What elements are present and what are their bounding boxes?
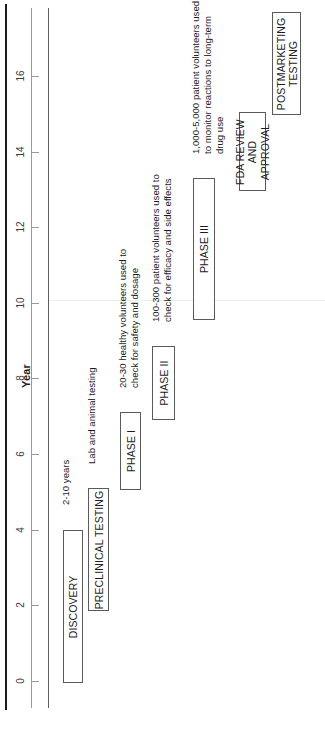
axis-tick-label-16-wrap: 16 <box>12 69 30 83</box>
bar-label-phase-i: PHASE I <box>124 430 136 472</box>
bar-phase-iii: PHASE III <box>193 178 215 320</box>
axis-tick-label-6: 6 <box>16 451 26 457</box>
bar-postmarketing-testing: POSTMARKETING TESTING <box>272 12 301 115</box>
axis-tick-label-6-wrap: 6 <box>12 447 30 461</box>
bar-preclinical-testing: PRECLINICAL TESTING <box>88 488 109 611</box>
axis-tick-4 <box>31 530 39 531</box>
axis-tick-label-4: 4 <box>16 527 26 533</box>
bar-label-preclinical-testing: PRECLINICAL TESTING <box>92 490 104 609</box>
axis-tick-6 <box>31 454 39 455</box>
axis-tick-0 <box>31 681 39 682</box>
bar-fda-review: FDA REVIEW AND APPROVAL <box>239 112 266 191</box>
note-phase-iii-line1: 1,000-5,000 patient volunteers used <box>190 1 202 154</box>
axis-tick-label-2: 2 <box>16 602 26 608</box>
axis-tick-label-8: 8 <box>16 375 26 381</box>
axis-tick-label-14: 14 <box>16 146 26 157</box>
axis-tick-14 <box>31 152 39 153</box>
axis-tick-10 <box>31 303 39 304</box>
note-phase-iii-line3: drug use <box>214 117 226 154</box>
axis-tick-label-10: 10 <box>16 297 26 308</box>
bar-label-postmarketing-testing: POSTMARKETING TESTING <box>274 17 299 109</box>
bar-label-fda-review: FDA REVIEW AND APPROVAL <box>234 119 271 185</box>
axis-tick-2 <box>31 605 39 606</box>
axis-tick-16 <box>31 76 39 77</box>
axis-tick-label-8-wrap: 8 <box>12 371 30 385</box>
axis-tick-12 <box>31 227 39 228</box>
figure-hairline <box>48 300 325 301</box>
bar-label-discovery: DISCOVERY <box>67 575 79 638</box>
note-preclinical: Lab and animal testing <box>86 367 98 464</box>
note-phase-i-line1: 20-30 healthy volunteers used to <box>117 249 129 388</box>
axis-tick-label-4-wrap: 4 <box>12 523 30 537</box>
axis-baseline <box>48 8 49 708</box>
bar-phase-ii: PHASE II <box>152 346 175 420</box>
axis-tick-label-0: 0 <box>16 678 26 684</box>
axis-tick-label-12-wrap: 12 <box>12 220 30 234</box>
note-phase-ii-line1: 100-300 patient volunteers used to <box>150 174 162 322</box>
note-phase-i-line2: check for safety and dosage <box>129 268 141 388</box>
drug-development-timeline-figure: Year 0 2 4 6 8 10 12 14 16 DISCOVERY 2-1… <box>0 0 325 731</box>
bar-discovery: DISCOVERY <box>63 530 83 683</box>
note-phase-ii-line2: check for efficacy and side effects <box>162 178 174 322</box>
axis-tick-label-10-wrap: 10 <box>12 296 30 310</box>
axis-tick-label-16: 16 <box>16 70 26 81</box>
axis-tick-label-14-wrap: 14 <box>12 145 30 159</box>
axis-tick-8 <box>31 378 39 379</box>
note-phase-iii-line2: to monitor reactions to long-term <box>202 16 214 154</box>
bar-label-phase-iii: PHASE III <box>198 225 210 273</box>
figure-frame-edge <box>5 4 7 710</box>
axis-tick-label-0-wrap: 0 <box>12 674 30 688</box>
note-discovery: 2-10 years <box>60 460 72 505</box>
bar-label-phase-ii: PHASE II <box>157 360 169 405</box>
axis-tick-label-2-wrap: 2 <box>12 598 30 612</box>
axis-spine <box>31 8 32 708</box>
axis-tick-label-12: 12 <box>16 221 26 232</box>
bar-phase-i: PHASE I <box>120 412 141 490</box>
